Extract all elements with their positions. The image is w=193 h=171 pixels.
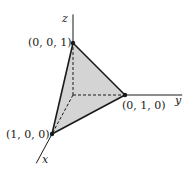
x-axis-label: x: [42, 153, 49, 166]
z-vertex-label: (0, 0, 1): [28, 36, 72, 49]
y-axis-label: y: [174, 94, 182, 107]
tetrahedron-diagram: z y x (0, 0, 1) (0, 1, 0) (1, 0, 0): [0, 0, 193, 171]
y-vertex-dot: [123, 93, 127, 97]
z-axis-label: z: [61, 12, 68, 25]
x-vertex-label: (1, 0, 0): [6, 128, 50, 141]
x-vertex-dot: [50, 132, 54, 136]
y-vertex-label: (0, 1, 0): [122, 99, 166, 112]
